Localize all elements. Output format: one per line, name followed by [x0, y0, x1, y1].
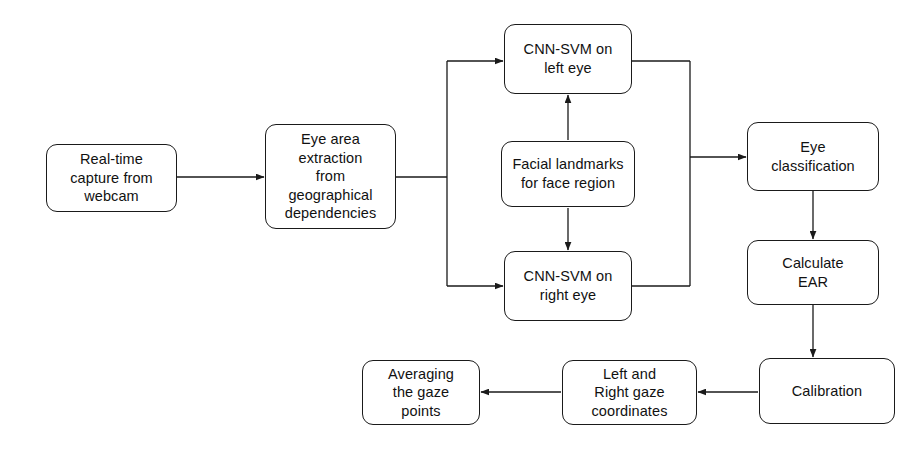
- node-label-averaging-gaze-points: Averaging the gaze points: [383, 365, 459, 421]
- node-facial-landmarks[interactable]: Facial landmarks for face region: [501, 141, 635, 207]
- node-realtime-capture[interactable]: Real-time capture from webcam: [46, 144, 177, 212]
- node-calculate-ear[interactable]: Calculate EAR: [747, 240, 879, 305]
- node-cnn-svm-right-eye[interactable]: CNN-SVM on right eye: [504, 251, 632, 321]
- flowchart-diagram: Real-time capture from webcam Eye area e…: [0, 0, 924, 453]
- node-label-calculate-ear: Calculate EAR: [777, 254, 848, 291]
- node-label-facial-landmarks: Facial landmarks for face region: [507, 155, 628, 192]
- node-label-eye-classification: Eye classification: [766, 138, 860, 175]
- node-label-eye-area-extraction: Eye area extraction from geographical de…: [280, 130, 382, 223]
- node-label-left-right-gaze-coordinates: Left and Right gaze coordinates: [586, 365, 672, 421]
- node-calibration[interactable]: Calibration: [759, 358, 895, 424]
- node-label-cnn-svm-left-eye: CNN-SVM on left eye: [519, 40, 618, 77]
- node-eye-classification[interactable]: Eye classification: [747, 122, 879, 191]
- node-label-cnn-svm-right-eye: CNN-SVM on right eye: [519, 267, 618, 304]
- node-label-calibration: Calibration: [787, 382, 867, 401]
- node-label-realtime-capture: Real-time capture from webcam: [65, 150, 158, 206]
- node-averaging-gaze-points[interactable]: Averaging the gaze points: [362, 360, 480, 425]
- node-eye-area-extraction[interactable]: Eye area extraction from geographical de…: [265, 124, 396, 229]
- node-left-right-gaze-coordinates[interactable]: Left and Right gaze coordinates: [562, 360, 697, 425]
- node-cnn-svm-left-eye[interactable]: CNN-SVM on left eye: [504, 24, 632, 94]
